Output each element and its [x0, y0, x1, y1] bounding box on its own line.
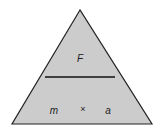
force-label: F	[77, 53, 83, 64]
mass-label: m	[50, 105, 58, 116]
multiply-operator: ×	[80, 104, 85, 114]
acceleration-label: a	[105, 105, 111, 116]
